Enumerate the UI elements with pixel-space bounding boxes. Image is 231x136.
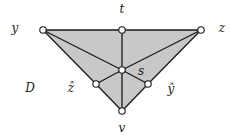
node-label-z: z (219, 22, 225, 34)
region-label-D: D (25, 82, 35, 94)
node-label-v: v (119, 122, 126, 134)
node-zhat (93, 81, 99, 87)
node-label-zhat: ẑ (68, 82, 74, 94)
node-v (119, 108, 125, 114)
diagram-canvas: ytzsẑŷv D (0, 0, 231, 136)
node-s (119, 67, 125, 73)
node-z (198, 27, 204, 33)
node-y (40, 27, 46, 33)
graph-drawing (0, 0, 231, 136)
node-yhat (145, 81, 151, 87)
node-label-y: y (12, 22, 19, 34)
node-label-yhat: ŷ (168, 83, 175, 95)
node-t (119, 27, 125, 33)
node-label-t: t (120, 3, 125, 15)
node-label-s: s (138, 65, 144, 77)
